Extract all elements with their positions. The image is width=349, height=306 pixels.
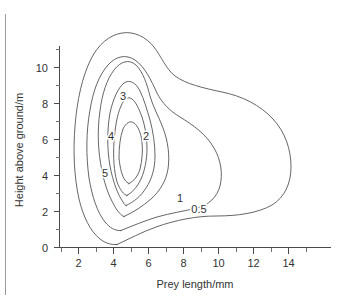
plot-canvas: 0.5 1 2 3 4 5 2 4 6 8 10 12 14 0 2 4 6 8… [0, 0, 349, 306]
contour-lines [74, 33, 291, 245]
contour-label-0p5: 0.5 [191, 203, 206, 215]
contour-label-3: 3 [120, 90, 126, 102]
x-tick-label: 14 [282, 257, 294, 269]
contour-level-5 [119, 122, 142, 184]
y-tick-label: 0 [42, 242, 48, 254]
x-tick-label: 6 [145, 257, 151, 269]
contour-plot-figure: 0.5 1 2 3 4 5 2 4 6 8 10 12 14 0 2 4 6 8… [0, 0, 349, 306]
y-tick-label: 4 [42, 170, 48, 182]
y-tick-labels: 0 2 4 6 8 10 [36, 62, 48, 254]
x-tick-label: 2 [75, 257, 81, 269]
x-axis-ticks [62, 248, 307, 254]
x-tick-label: 8 [180, 257, 186, 269]
contour-label-5: 5 [102, 167, 108, 179]
contour-level-0p5 [74, 33, 291, 245]
x-tick-label: 12 [247, 257, 259, 269]
y-tick-label: 10 [36, 62, 48, 74]
y-axis-ticks [54, 50, 60, 248]
x-axis-title: Prey length/mm [156, 278, 233, 290]
contour-level-3 [108, 81, 155, 205]
y-tick-label: 8 [42, 98, 48, 110]
contour-label-4: 4 [108, 130, 114, 142]
contour-label-1: 1 [177, 192, 183, 204]
x-tick-labels: 2 4 6 8 10 12 14 [75, 257, 294, 269]
y-axis-title: Height above ground/m [13, 93, 25, 207]
y-tick-label: 6 [42, 134, 48, 146]
contour-label-2: 2 [143, 130, 149, 142]
x-tick-label: 10 [212, 257, 224, 269]
y-tick-label: 2 [42, 206, 48, 218]
x-tick-label: 4 [110, 257, 116, 269]
